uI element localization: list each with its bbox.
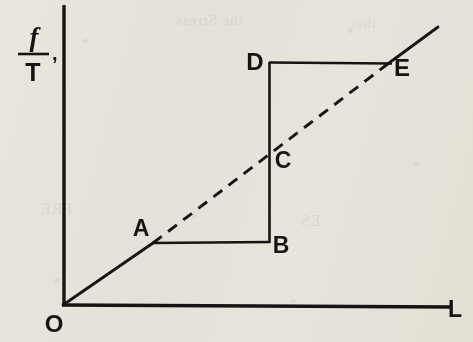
point-label-b: B: [273, 232, 290, 258]
x-axis-label: L: [448, 296, 462, 322]
curve-segment-o-a: [63, 243, 153, 305]
origin-label: O: [45, 310, 64, 337]
y-axis-label-numerator: f: [30, 22, 42, 52]
point-label-c: C: [275, 147, 292, 173]
y-axis-label-denominator: T: [25, 58, 40, 86]
point-label-e: E: [394, 54, 410, 81]
curve-segment-a-b: [152, 242, 270, 243]
x-axis: [62, 305, 452, 307]
y-axis-label-prime: ,: [52, 42, 58, 64]
diagram-svg: f T , L O A B C D E: [0, 0, 473, 342]
curve-segment-d-e: [269, 63, 392, 64]
point-label-a: A: [133, 215, 150, 241]
figure-canvas: the Stress ther PRE ES f T , L O: [0, 0, 473, 342]
curve-segment-a-e-dashed: [153, 63, 389, 243]
y-axis-label-group: f T ,: [18, 22, 58, 86]
point-label-d: D: [246, 48, 263, 75]
